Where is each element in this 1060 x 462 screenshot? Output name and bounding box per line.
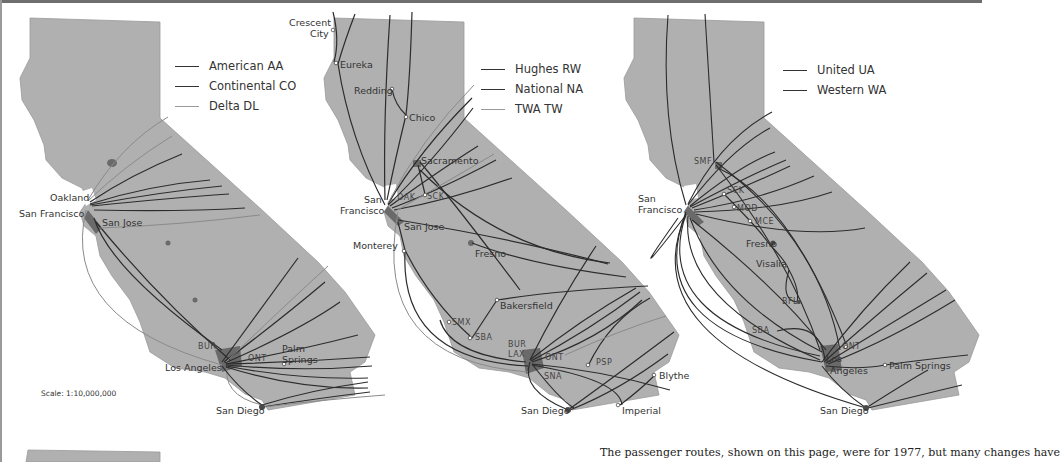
legend-label: National NA bbox=[515, 82, 583, 96]
city-label: Palm Springs bbox=[889, 360, 951, 371]
city-label: Oakland bbox=[50, 192, 89, 203]
legend-line-dark bbox=[783, 70, 807, 71]
legend-line-light bbox=[175, 106, 199, 107]
city-label: Visalia bbox=[756, 258, 787, 269]
map-scale: Scale: 1:10,000,000 bbox=[41, 389, 116, 398]
city-label: San Diego bbox=[521, 405, 570, 416]
airport-code: MOD bbox=[737, 204, 758, 213]
city-label: Francisco bbox=[638, 204, 682, 215]
city-label: Blythe bbox=[659, 370, 689, 381]
city-label: Redding bbox=[354, 85, 393, 96]
legend-item: Hughes RW bbox=[481, 59, 583, 79]
legend-item: Continental CO bbox=[175, 76, 296, 96]
airport-code: SBA bbox=[752, 326, 770, 335]
city-label: San Diego bbox=[216, 405, 265, 416]
city-label: San Francisco bbox=[19, 208, 84, 219]
city-label: Bakersfield bbox=[500, 300, 553, 311]
city-label: Springs bbox=[282, 354, 318, 365]
city-label: City bbox=[310, 28, 329, 39]
airport-code: BUR bbox=[508, 340, 526, 349]
airport-code: MCE bbox=[755, 217, 774, 226]
legend-map-2: Hughes RW National NA TWA TW bbox=[481, 59, 583, 119]
city-label: Angeles bbox=[830, 365, 868, 376]
legend-line-dark bbox=[481, 69, 505, 70]
legend-label: Continental CO bbox=[209, 79, 296, 93]
legend-item: American AA bbox=[175, 56, 296, 76]
city-label: Crescent bbox=[289, 17, 331, 28]
airport-code: PSP bbox=[596, 358, 612, 367]
legend-label: Delta DL bbox=[209, 99, 259, 113]
airport-code: SBA bbox=[475, 333, 493, 342]
legend-item: United UA bbox=[783, 60, 886, 80]
legend-label: TWA TW bbox=[515, 102, 563, 116]
airport-code: SCK bbox=[427, 192, 444, 201]
city-label: Francisco bbox=[340, 205, 384, 216]
city-label: Chico bbox=[409, 112, 435, 123]
city-label: Fresno bbox=[746, 238, 777, 249]
legend-line-light bbox=[481, 109, 505, 110]
legend-map-1: American AA Continental CO Delta DL bbox=[175, 56, 296, 116]
legend-line-dark bbox=[175, 66, 199, 67]
city-label: Fresno bbox=[475, 248, 506, 259]
airport-code: SNA bbox=[544, 372, 562, 381]
legend-item: Delta DL bbox=[175, 96, 296, 116]
airport-code: ONT bbox=[842, 342, 861, 351]
legend-line-dark bbox=[175, 86, 199, 87]
airport-code: SMX bbox=[452, 318, 471, 327]
legend-map-3: United UA Western WA bbox=[783, 60, 886, 100]
legend-label: Hughes RW bbox=[515, 62, 581, 76]
airport-code: BFL bbox=[782, 297, 798, 306]
legend-item: TWA TW bbox=[481, 99, 583, 119]
legend-item: National NA bbox=[481, 79, 583, 99]
partial-map-fragment bbox=[26, 450, 160, 462]
caption-text: The passenger routes, shown on this page… bbox=[600, 446, 1060, 459]
city-label: Palm bbox=[282, 343, 305, 354]
legend-label: United UA bbox=[817, 63, 875, 77]
legend-line-dark bbox=[481, 89, 505, 90]
legend-line-dark bbox=[783, 90, 807, 91]
airport-code: ONT bbox=[248, 354, 267, 363]
city-label: Imperial bbox=[622, 405, 661, 416]
airport-code: SMF bbox=[694, 157, 712, 166]
city-label: Sacramento bbox=[421, 155, 478, 166]
airport-code: LAX bbox=[508, 350, 525, 359]
city-label: San Jose bbox=[404, 221, 444, 232]
city-label: San bbox=[364, 194, 382, 205]
city-label: Eureka bbox=[340, 59, 373, 70]
city-label: San bbox=[638, 193, 656, 204]
legend-item: Western WA bbox=[783, 80, 886, 100]
airport-code: OAK bbox=[397, 193, 415, 202]
airport-code: BUR bbox=[198, 342, 216, 351]
city-label: San Jose bbox=[102, 217, 142, 228]
legend-label: Western WA bbox=[817, 83, 886, 97]
airport-code: ONT bbox=[545, 353, 564, 362]
airport-code: SCK bbox=[727, 186, 744, 195]
legend-label: American AA bbox=[209, 59, 283, 73]
city-label: Monterey bbox=[353, 240, 398, 251]
city-label: Los bbox=[826, 353, 842, 364]
city-label: Los Angeles bbox=[165, 362, 222, 373]
city-label: San Diego bbox=[820, 405, 869, 416]
